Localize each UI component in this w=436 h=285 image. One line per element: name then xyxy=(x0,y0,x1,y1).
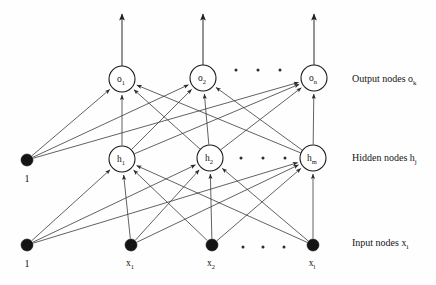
node-label-xl: xl xyxy=(309,258,316,270)
node-bias-input xyxy=(21,239,33,251)
edge-x2-to-hm xyxy=(217,168,301,240)
layer-captions-group: Output nodes okHidden nodes hjInput node… xyxy=(352,73,417,251)
edge-x1-to-h1 xyxy=(124,175,131,239)
node-label-x1: x1 xyxy=(126,258,134,270)
ellipsis-dot-output-2 xyxy=(257,69,260,72)
caption-input-layer: Input nodes xi xyxy=(352,237,408,251)
edge-bias-hidden-to-o1 xyxy=(32,89,110,155)
node-x2 xyxy=(206,239,218,251)
caption-hidden-layer: Hidden nodes hj xyxy=(352,152,417,166)
node-x1 xyxy=(125,239,137,251)
bias-label-bias-hidden: 1 xyxy=(25,173,30,184)
edge-bias-input-to-h2 xyxy=(33,165,196,242)
ellipsis-dot-input-2 xyxy=(262,246,265,249)
edge-hm-to-on xyxy=(313,94,314,145)
bias-nodes-group: 11 xyxy=(21,154,33,269)
ellipsis-dot-hidden-3 xyxy=(284,157,287,160)
node-bias-hidden xyxy=(21,154,33,166)
caption-output-layer: Output nodes ok xyxy=(352,73,417,87)
output-arrows xyxy=(122,14,314,66)
edges-hidden-to-output xyxy=(32,82,314,158)
edge-bias-input-to-hm xyxy=(33,163,297,243)
edge-bias-hidden-to-o2 xyxy=(33,85,189,157)
input-nodes-group: x1x2xl xyxy=(125,239,319,270)
ellipsis-dot-hidden-2 xyxy=(262,157,265,160)
ellipsis-dot-output-3 xyxy=(279,69,282,72)
edge-h1-to-o2 xyxy=(132,89,192,149)
ellipsis-dot-input-1 xyxy=(242,246,245,249)
network-canvas: x1x2xl 11 h1h2hm o1o2on Output nodes okH… xyxy=(0,0,436,285)
ellipsis-dot-output-1 xyxy=(235,69,238,72)
edges-input-to-hidden xyxy=(32,163,313,243)
node-label-x2: x2 xyxy=(207,258,215,270)
output-nodes-group: o1o2on xyxy=(109,65,327,92)
neural-network-diagram: x1x2xl 11 h1h2hm o1o2on Output nodes okH… xyxy=(0,0,436,285)
ellipsis-dot-hidden-1 xyxy=(240,157,243,160)
edge-xl-to-h2 xyxy=(222,168,308,240)
edge-bias-input-to-h1 xyxy=(32,170,110,241)
edge-h2-to-o2 xyxy=(204,94,208,145)
bias-label-bias-input: 1 xyxy=(25,258,30,269)
node-xl xyxy=(307,239,319,251)
ellipsis-dot-input-3 xyxy=(283,246,286,249)
